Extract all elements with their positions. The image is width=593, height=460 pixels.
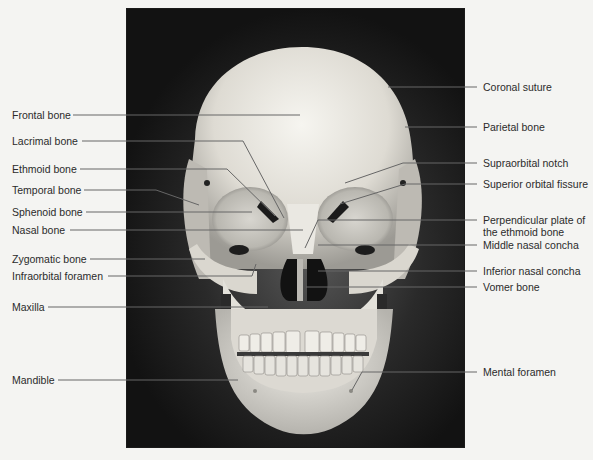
label-superior-orbital-fissure: Superior orbital fissure: [483, 178, 588, 190]
label-coronal-suture: Coronal suture: [483, 81, 552, 93]
label-nasal-bone: Nasal bone: [12, 224, 65, 236]
label-text: Parietal bone: [483, 121, 545, 133]
label-middle-nasal-concha: Middle nasal concha: [483, 239, 579, 251]
label-text: Lacrimal bone: [12, 135, 78, 147]
label-inferior-nasal-concha: Inferior nasal concha: [483, 265, 580, 277]
label-text: Mental foramen: [483, 366, 556, 378]
label-text: Superior orbital fissure: [483, 178, 588, 190]
label-supraorbital-notch: Supraorbital notch: [483, 157, 568, 169]
label-text: Zygomatic bone: [12, 253, 87, 265]
label-text: Frontal bone: [12, 109, 71, 121]
label-zygomatic-bone: Zygomatic bone: [12, 253, 87, 265]
label-parietal-bone: Parietal bone: [483, 121, 545, 133]
label-text: Perpendicular plate of: [483, 214, 585, 226]
label-temporal-bone: Temporal bone: [12, 184, 81, 196]
skull-photo: [127, 9, 464, 447]
label-vomer-bone: Vomer bone: [483, 281, 540, 293]
label-text: Sphenoid bone: [12, 206, 83, 218]
label-text: Inferior nasal concha: [483, 265, 580, 277]
label-text: the ethmoid bone: [483, 226, 585, 238]
label-lacrimal-bone: Lacrimal bone: [12, 135, 78, 147]
label-text: Supraorbital notch: [483, 157, 568, 169]
lower-teeth: [243, 356, 363, 376]
label-text: Coronal suture: [483, 81, 552, 93]
skull-illustration: [127, 9, 464, 447]
label-mental-foramen: Mental foramen: [483, 366, 556, 378]
label-text: Vomer bone: [483, 281, 540, 293]
label-text: Maxilla: [12, 301, 45, 313]
label-text: Temporal bone: [12, 184, 81, 196]
skull-diagram: Frontal boneLacrimal boneEthmoid boneTem…: [0, 0, 593, 460]
label-text: Infraorbital foramen: [12, 270, 103, 282]
label-text: Ethmoid bone: [12, 163, 77, 175]
label-text: Middle nasal concha: [483, 239, 579, 251]
label-infraorbital-foramen: Infraorbital foramen: [12, 270, 103, 282]
label-frontal-bone: Frontal bone: [12, 109, 71, 121]
label-sphenoid-bone: Sphenoid bone: [12, 206, 83, 218]
label-ethmoid-bone: Ethmoid bone: [12, 163, 77, 175]
label-mandible: Mandible: [12, 374, 55, 386]
label-perpendicular-plate: Perpendicular plate ofthe ethmoid bone: [483, 214, 585, 238]
label-maxilla: Maxilla: [12, 301, 45, 313]
label-text: Mandible: [12, 374, 55, 386]
label-text: Nasal bone: [12, 224, 65, 236]
